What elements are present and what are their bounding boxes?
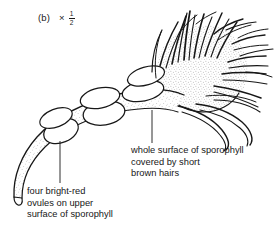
annotation-hairs-line-2: covered by short xyxy=(131,157,244,169)
panel-letter: (b) xyxy=(38,12,50,23)
annotation-ovules-line-1: four bright-red xyxy=(27,186,113,198)
annotation-ovules: four bright-red ovules on upper surface … xyxy=(27,186,113,221)
annotation-hairs-line-3: brown hairs xyxy=(131,168,244,180)
fraction-numerator: 1 xyxy=(69,11,75,18)
botanical-figure-panel-b: (b) × 1 2 whole surface of sporophyll co… xyxy=(0,0,275,228)
annotation-ovules-line-3: surface of sporophyll xyxy=(27,209,113,221)
annotation-hairs: whole surface of sporophyll covered by s… xyxy=(131,145,244,180)
panel-label: (b) × 1 2 xyxy=(38,11,75,26)
annotation-ovules-line-2: ovules on upper xyxy=(27,198,113,210)
magnification-fraction: 1 2 xyxy=(69,11,75,26)
fraction-denominator: 2 xyxy=(69,20,75,27)
magnification-symbol: × xyxy=(59,12,65,23)
annotation-hairs-line-1: whole surface of sporophyll xyxy=(131,145,244,157)
